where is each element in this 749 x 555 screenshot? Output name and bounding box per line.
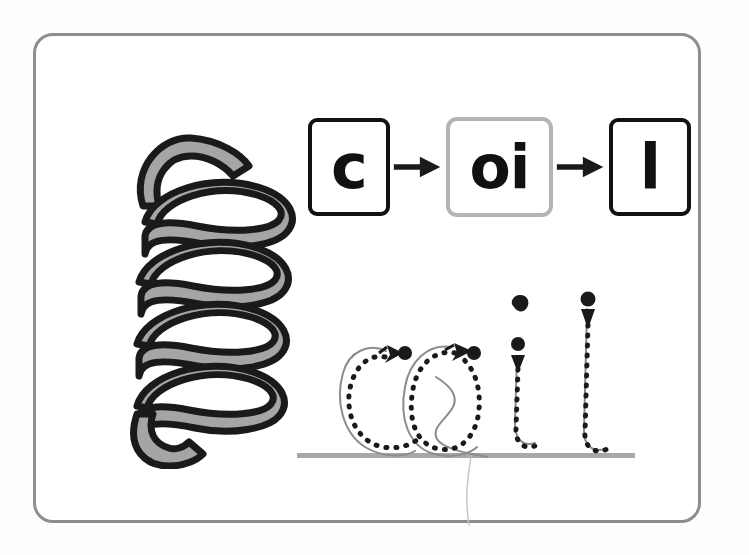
grapheme-label-l: l <box>640 136 660 198</box>
start-dot-i <box>511 337 525 351</box>
direction-arrow-c <box>385 345 403 363</box>
handwriting-tracing-guide <box>291 281 651 531</box>
handwriting-worksheet-card: c oi l <box>33 33 701 523</box>
phoneme-grapheme-sequence: c oi l <box>308 116 708 218</box>
grapheme-label-c: c <box>331 136 367 198</box>
start-dot-l <box>581 292 596 307</box>
grapheme-label-oi: oi <box>470 137 530 197</box>
arrow-right-icon <box>390 152 446 182</box>
start-dot-o <box>467 346 481 360</box>
coil-spring-illustration <box>91 114 301 469</box>
arrow-right-icon <box>553 152 609 182</box>
grapheme-box-oi[interactable]: oi <box>446 117 553 217</box>
grapheme-box-c[interactable]: c <box>308 118 390 216</box>
direction-arrow-l <box>581 309 595 329</box>
worksheet-stage: c oi l <box>0 0 749 555</box>
tittle-dot-i <box>512 295 529 311</box>
grapheme-box-l[interactable]: l <box>609 118 691 216</box>
direction-arrow-i <box>511 355 525 373</box>
